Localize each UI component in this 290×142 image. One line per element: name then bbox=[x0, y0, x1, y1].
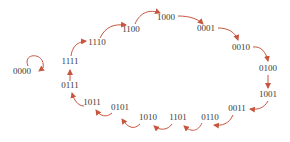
state-label-1111: 1111 bbox=[62, 56, 79, 66]
arrow-0001-to-0010 bbox=[218, 28, 238, 40]
state-label-0001: 0001 bbox=[197, 23, 215, 33]
arrow-0101-to-1011 bbox=[96, 110, 112, 116]
arrow-1101-to-1010 bbox=[154, 124, 172, 129]
state-label-0110: 0110 bbox=[201, 112, 219, 122]
arrow-1001-to-0011 bbox=[250, 101, 268, 109]
state-diagram: 0000 1111 1110 1100 1000 0001 0010 0100 … bbox=[0, 0, 290, 142]
nodes: 0000 1111 1110 1100 1000 0001 0010 0100 … bbox=[13, 12, 278, 122]
state-label-1011: 1011 bbox=[83, 97, 101, 107]
arrow-0110-to-1101 bbox=[184, 123, 202, 130]
state-label-1000: 1000 bbox=[157, 12, 176, 22]
state-label-1001: 1001 bbox=[259, 89, 277, 99]
state-label-0011: 0011 bbox=[228, 103, 246, 113]
diagram-svg: 0000 1111 1110 1100 1000 0001 0010 0100 … bbox=[0, 0, 290, 142]
state-label-1010: 1010 bbox=[139, 112, 158, 122]
arrow-1111-to-1110 bbox=[71, 41, 86, 56]
state-label-0000: 0000 bbox=[13, 66, 32, 76]
state-label-0101: 0101 bbox=[111, 102, 129, 112]
state-label-1101: 1101 bbox=[169, 112, 187, 122]
state-label-1110: 1110 bbox=[88, 37, 106, 47]
arrow-0010-to-0100 bbox=[253, 47, 268, 61]
state-label-0100: 0100 bbox=[259, 63, 278, 73]
state-label-0111: 0111 bbox=[61, 80, 78, 90]
state-label-0010: 0010 bbox=[232, 42, 251, 52]
arrow-1010-to-0101 bbox=[122, 119, 140, 127]
state-label-1100: 1100 bbox=[122, 24, 140, 34]
